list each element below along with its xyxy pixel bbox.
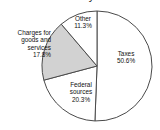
slice-label-other-name: Other (62, 15, 104, 22)
slice-label-federal-value: 20.3% (57, 96, 105, 103)
slice-label-charges-line2: goods and (0, 36, 51, 43)
pie-chart-figure: Revenues by source Taxes 50.6% Federal s… (0, 0, 160, 130)
slice-label-charges-line1: Charges for (0, 29, 51, 36)
slice-label-taxes-name: Taxes (104, 50, 148, 57)
slice-label-other: Other 11.3% (62, 15, 104, 30)
slice-label-taxes-value: 50.6% (104, 57, 148, 64)
slice-label-federal-name-line1: Federal (57, 81, 105, 88)
slice-label-charges-goods-services: Charges for goods and services 17.8% (0, 29, 51, 59)
slice-label-taxes: Taxes 50.6% (104, 50, 148, 65)
slice-label-charges-value: 17.8% (0, 51, 51, 58)
slice-label-charges-line3: services (0, 44, 51, 51)
slice-label-federal-sources: Federal sources 20.3% (57, 81, 105, 103)
slice-label-other-value: 11.3% (62, 22, 104, 29)
slice-label-federal-name-line2: sources (57, 88, 105, 95)
